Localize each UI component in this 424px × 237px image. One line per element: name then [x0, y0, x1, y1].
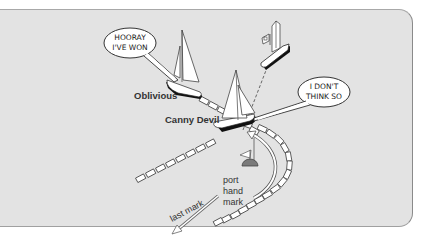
speech-line: HOORAY: [114, 33, 146, 42]
speech-bubble-oblivious: HOORAY I'VE WON: [104, 28, 178, 82]
speech-bubble-canny: I DON'T THINK SO: [254, 77, 350, 121]
wake-track-left: [136, 139, 216, 183]
boat-label-oblivious: Oblivious: [134, 90, 177, 101]
mark-label-hand: hand: [223, 186, 243, 196]
oblivious-boat-icon: [166, 30, 202, 99]
mark-label-mark: mark: [223, 197, 243, 207]
speech-line: THINK SO: [305, 92, 342, 101]
sailing-diagram: last mark port hand mark HOORAY I'VE WON: [0, 0, 424, 237]
speech-line: I DON'T: [310, 82, 339, 91]
port-hand-mark-icon: [240, 138, 258, 166]
committee-boat-icon: [261, 21, 290, 70]
boat-label-canny-devil: Canny Devil: [165, 114, 219, 125]
speech-line: I'VE WON: [112, 43, 147, 52]
canny-devil-boat-icon: [214, 70, 256, 132]
mark-label-port: port: [223, 175, 239, 185]
